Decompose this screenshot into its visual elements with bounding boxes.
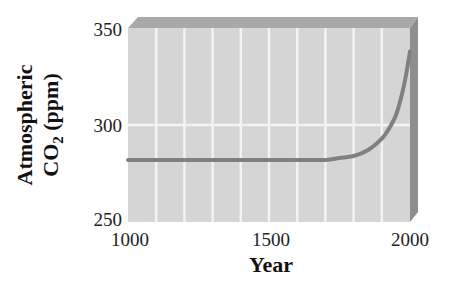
y-tick-250: 250	[94, 209, 123, 230]
co2-chart: 350 300 250 1000 1500 2000 Year Atmosphe…	[0, 0, 449, 294]
panel-top-face	[128, 17, 418, 28]
x-tick-1000: 1000	[111, 229, 149, 250]
y-axis-title: Atmospheric CO2 (ppm)	[12, 64, 66, 185]
x-tick-1500: 1500	[252, 229, 290, 250]
x-axis-title: Year	[249, 252, 293, 277]
y-tick-300: 300	[94, 115, 123, 136]
x-tick-2000: 2000	[391, 229, 429, 250]
y-axis-title-line1: Atmospheric	[12, 64, 37, 185]
y-axis-title-line2: CO2 (ppm)	[38, 73, 66, 176]
y-tick-350: 350	[94, 19, 123, 40]
panel-side-face	[410, 17, 418, 222]
